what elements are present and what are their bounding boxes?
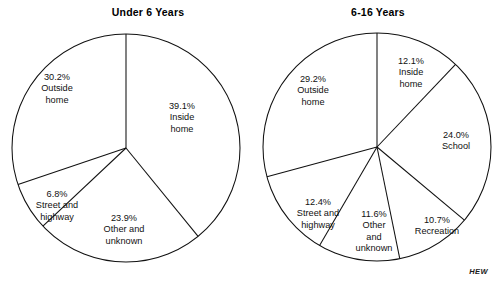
pie-divider-under-6-years-3 [18,148,126,185]
pie-chart-figure: Under 6 Years 6-16 Years 39.1%Inside hom… [0,0,497,282]
pie-divider-6-16-years-4 [320,147,377,245]
pie-divider-under-6-years-2 [43,148,126,226]
pie-divider-6-16-years-5 [267,147,377,177]
pie-divider-6-16-years-1 [377,64,456,147]
source-credit: HEW [469,267,488,276]
pie-slices-vector [0,0,497,282]
pie-divider-under-6-years-1 [126,148,198,236]
